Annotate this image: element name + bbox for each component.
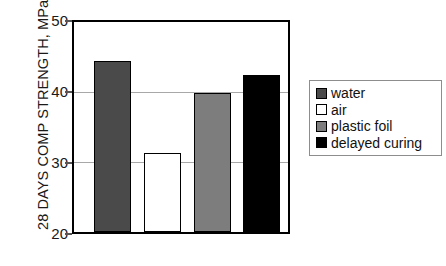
y-tick-label-30: 30: [34, 155, 68, 170]
bar-delayed-curing: [243, 75, 280, 232]
legend-item-air: air: [316, 102, 436, 119]
legend-item-water: water: [316, 85, 436, 102]
plot-inner: [74, 22, 288, 232]
y-tick-label-50: 50: [34, 13, 68, 28]
legend-label-water: water: [331, 86, 365, 100]
bar-chart-figure: 28 DAYS COMP STRENGTH, MPa 50 40 30 20 w…: [0, 0, 446, 266]
bar-water: [94, 61, 131, 232]
plot-area: [72, 20, 290, 234]
legend-swatch-delayed-curing: [316, 137, 327, 148]
bar-air: [144, 153, 181, 232]
y-tick-mark-30: [65, 162, 72, 164]
y-axis-tick-labels: 50 40 30 20: [28, 0, 68, 266]
legend-swatch-plastic-foil: [316, 121, 327, 132]
y-tick-mark-40: [65, 91, 72, 93]
legend-label-air: air: [331, 103, 347, 117]
legend-label-delayed-curing: delayed curing: [331, 136, 422, 150]
legend-item-plastic-foil: plastic foil: [316, 118, 436, 135]
bar-plastic-foil: [194, 93, 231, 232]
legend-item-delayed-curing: delayed curing: [316, 135, 436, 152]
chart-legend: water air plastic foil delayed curing: [309, 80, 442, 156]
y-tick-label-20: 20: [34, 226, 68, 241]
legend-label-plastic-foil: plastic foil: [331, 119, 392, 133]
y-tick-label-40: 40: [34, 84, 68, 99]
legend-swatch-air: [316, 104, 327, 115]
y-tick-mark-50: [65, 20, 72, 22]
y-tick-mark-20: [65, 233, 72, 235]
legend-swatch-water: [316, 88, 327, 99]
